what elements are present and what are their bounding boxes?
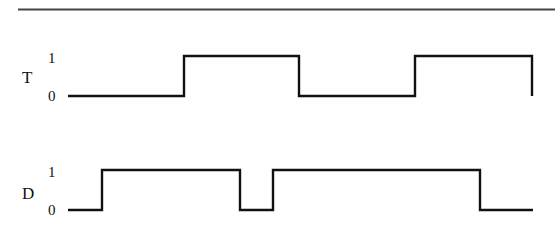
t-low-label: 0 xyxy=(48,89,56,104)
d-low-label: 0 xyxy=(48,203,56,218)
timing-diagram: T 1 0 D 1 0 xyxy=(0,0,555,225)
d-high-label: 1 xyxy=(48,165,56,180)
t-high-label: 1 xyxy=(48,51,56,66)
t-waveform xyxy=(68,56,532,96)
d-signal-label: D xyxy=(22,185,34,202)
d-waveform xyxy=(68,170,533,210)
waveform-canvas xyxy=(0,0,555,225)
t-signal-label: T xyxy=(22,69,32,86)
